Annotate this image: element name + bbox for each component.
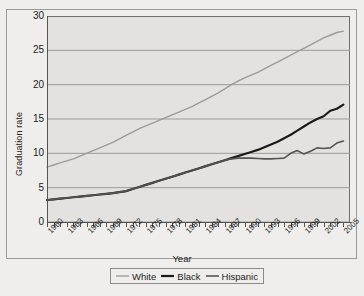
- legend-swatch-white: [116, 273, 129, 279]
- legend-item-white: White: [116, 272, 156, 281]
- legend-label: Black: [177, 272, 200, 281]
- legend-label: White: [132, 272, 156, 281]
- legend-label: Hispanic: [222, 272, 258, 281]
- y-tick-label: 5: [18, 183, 44, 193]
- y-axis-line: [47, 16, 48, 223]
- legend-item-hispanic: Hispanic: [206, 272, 258, 281]
- chart-legend: WhiteBlackHispanic: [110, 268, 264, 284]
- y-tick-label: 15: [18, 114, 44, 124]
- y-tick-label: 20: [18, 80, 44, 90]
- series-line-white: [47, 31, 343, 167]
- y-tick-label: 25: [18, 45, 44, 55]
- plot-area: [47, 16, 350, 222]
- y-tick-labels: 051015202530: [14, 0, 44, 232]
- legend-item-black: Black: [161, 272, 200, 281]
- chart-figure: Graduation rate 051015202530 19601963196…: [0, 0, 364, 296]
- y-tick-label: 10: [18, 148, 44, 158]
- figure-caption: [34, 0, 334, 8]
- x-axis-title: Year: [0, 253, 364, 264]
- legend-swatch-black: [161, 273, 174, 279]
- y-tick-label: 30: [18, 11, 44, 21]
- chart-lines: [47, 16, 350, 222]
- y-tick-label: 0: [18, 217, 44, 227]
- legend-swatch-hispanic: [206, 273, 219, 279]
